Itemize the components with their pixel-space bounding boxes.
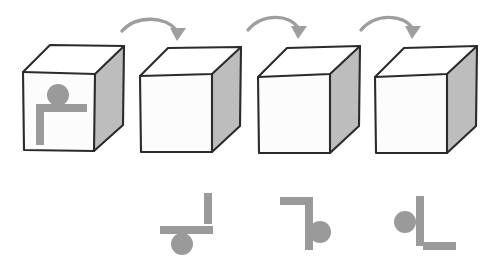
answer-symbol-1-circle — [171, 233, 193, 255]
cube-1-inner-edge-vertical — [94, 74, 95, 151]
cube-4 — [375, 46, 477, 153]
rotation-arrow-3 — [361, 17, 421, 39]
answer-symbol-2-vertical-bar — [305, 198, 313, 250]
face-symbol-circle — [47, 84, 69, 106]
rotation-arrow-2 — [248, 17, 307, 39]
answer-symbol-1-vertical-bar — [204, 193, 212, 224]
answer-symbol-2-circle — [309, 221, 331, 243]
rotation-arrow-2-head — [291, 26, 307, 39]
cube-3 — [258, 46, 360, 153]
cube-2 — [140, 47, 241, 152]
figure-canvas — [0, 0, 504, 269]
answer-symbol-1 — [160, 193, 213, 255]
answer-symbol-3 — [394, 196, 456, 250]
answer-symbol-2 — [280, 197, 331, 250]
face-symbol-vertical-bar — [36, 112, 44, 145]
answer-symbol-3-vertical-bar — [416, 196, 424, 246]
answer-symbol-3-circle — [394, 211, 416, 233]
answer-symbol-3-horizontal-bar — [423, 242, 456, 250]
rotation-arrow-2-curve — [248, 17, 298, 30]
face-symbol-horizontal-bar — [36, 104, 87, 112]
rotation-arrow-3-head — [405, 26, 421, 39]
cube-2-front-face — [140, 74, 212, 152]
cube-4-front-face — [375, 74, 447, 153]
rotation-arrow-1 — [122, 19, 186, 41]
answer-symbol-1-horizontal-bar — [160, 226, 213, 234]
figure-svg — [0, 0, 504, 269]
rotation-arrow-1-head — [170, 28, 186, 41]
cube-3-front-face — [258, 74, 330, 153]
rotation-arrow-3-curve — [361, 17, 412, 30]
rotation-arrow-1-curve — [122, 19, 176, 31]
cube-1 — [23, 45, 124, 151]
